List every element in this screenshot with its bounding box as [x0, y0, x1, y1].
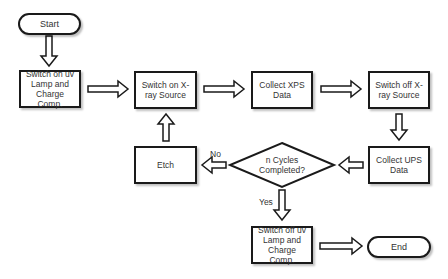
- switch-on-xray-box: Switch on X-ray Source: [134, 71, 197, 109]
- arrow-right-icon: [88, 81, 128, 97]
- arrow-down-icon: [41, 36, 57, 66]
- arrow-down-icon: [274, 190, 290, 220]
- arrow-right-icon: [320, 238, 362, 254]
- switch-on-uv-lamp-box: Switch on uv Lamp and Charge Comp.: [19, 70, 81, 108]
- arrow-left-icon: [202, 157, 226, 173]
- edge-label-no: No: [210, 149, 221, 159]
- arrow-up-icon: [158, 114, 174, 141]
- edge-label-yes: Yes: [259, 197, 273, 207]
- switch-off-xray-box: Switch off X-ray Source: [368, 71, 430, 109]
- collect-ups-box: Collect UPS Data: [368, 146, 430, 184]
- end-terminal: End: [367, 236, 431, 258]
- collect-xps-box: Collect XPS Data: [251, 71, 313, 109]
- arrow-right-icon: [321, 81, 361, 97]
- switch-off-uv-lamp-box: Switch off uv Lamp and Charge Comp.: [251, 226, 313, 264]
- start-terminal: Start: [18, 13, 81, 35]
- arrow-down-icon: [391, 114, 407, 140]
- decision-label: n Cycles Completed?: [252, 155, 312, 175]
- flowchart-canvas: Start Switch on uv Lamp and Charge Comp.…: [0, 0, 448, 279]
- etch-box: Etch: [134, 146, 197, 184]
- arrow-left-icon: [339, 157, 363, 173]
- arrow-right-icon: [204, 81, 244, 97]
